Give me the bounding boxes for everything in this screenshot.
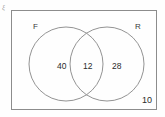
universal-set-symbol: ξ xyxy=(2,4,5,11)
region-count-f-only: 40 xyxy=(57,62,66,71)
region-count-intersection: 12 xyxy=(83,62,92,71)
venn-diagram-figure: ξ F R 40 12 28 10 xyxy=(0,0,165,117)
set-circle-r xyxy=(70,27,144,101)
region-count-r-only: 28 xyxy=(112,62,121,71)
set-label-f: F xyxy=(33,23,38,31)
set-label-r: R xyxy=(135,23,141,31)
region-count-outside: 10 xyxy=(142,96,152,105)
venn-diagram-canvas xyxy=(0,0,165,117)
